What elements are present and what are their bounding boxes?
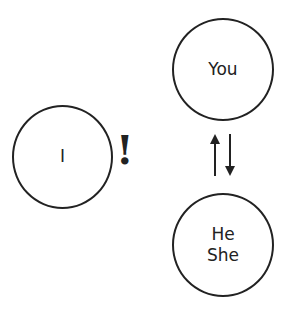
exclamation-mark: ! bbox=[116, 130, 134, 170]
node-you: You bbox=[172, 18, 274, 121]
node-she-label: She bbox=[207, 245, 239, 266]
node-he-label: He bbox=[211, 224, 234, 245]
up-down-arrows-icon bbox=[206, 134, 238, 178]
node-he-she: He She bbox=[172, 193, 274, 297]
node-i: I bbox=[12, 105, 113, 209]
node-i-label: I bbox=[60, 146, 65, 167]
node-you-label: You bbox=[208, 59, 237, 80]
